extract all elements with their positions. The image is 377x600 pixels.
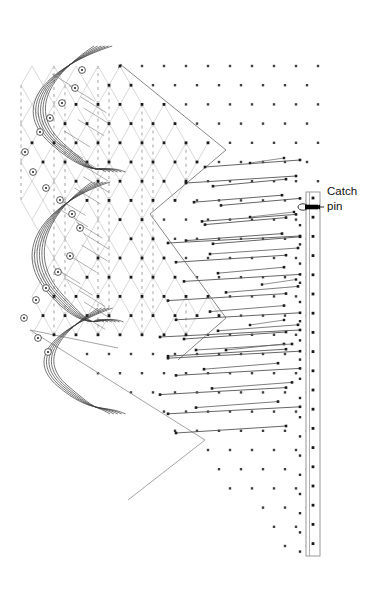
catch-pin-label-line2: pin bbox=[327, 200, 342, 212]
diagram-canvas: Catch pin bbox=[0, 0, 377, 600]
catch-pin-net-diagram: Catch pin bbox=[0, 0, 377, 600]
catch-pin-label-line1: Catch bbox=[327, 185, 357, 197]
background bbox=[0, 0, 377, 600]
